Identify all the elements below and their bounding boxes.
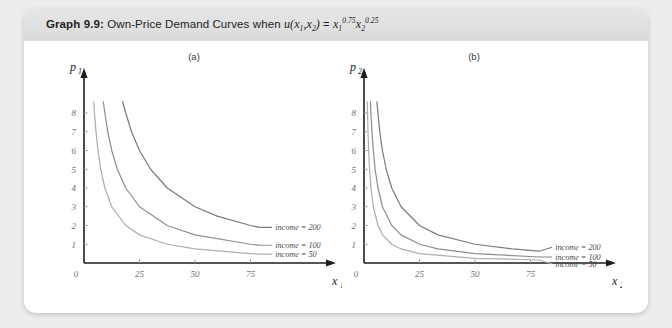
figure-number: Graph 9.9:: [46, 18, 104, 30]
x-tick-label: 50: [191, 269, 201, 279]
y-axis-subscript: 1: [78, 67, 82, 76]
y-tick-label: 6: [72, 146, 77, 156]
utility-open: (x: [290, 17, 300, 31]
y-tick-label: 1: [72, 240, 77, 250]
rhs-x2-sub: 2: [361, 24, 365, 33]
y-tick-label: 7: [352, 127, 357, 137]
y-tick-label: 3: [351, 202, 357, 212]
y-tick-label: 4: [72, 183, 77, 193]
y-tick-label: 3: [71, 202, 77, 212]
figure-caption: Graph 9.9: Own-Price Demand Curves when …: [46, 16, 379, 33]
x-tick-label: 75: [246, 269, 256, 279]
y-tick-label: 6: [352, 146, 357, 156]
figure-page: Graph 9.9: Own-Price Demand Curves when …: [0, 0, 672, 328]
figure-title-text: Own-Price Demand Curves when: [107, 18, 280, 30]
demand-curve: [103, 102, 259, 245]
y-tick-label: 7: [72, 127, 77, 137]
y-tick-label: 2: [72, 221, 77, 231]
y-tick-label: 4: [352, 183, 357, 193]
x-axis-subscript: 2: [620, 281, 622, 290]
y-axis-label: p: [349, 60, 356, 74]
rhs-x1-exponent: 0.75: [342, 16, 356, 25]
legend-label: income = 50: [275, 250, 316, 259]
demand-curve: [377, 102, 539, 251]
utility-comma: ,x: [303, 17, 312, 31]
panel-a: (a) 025507512345678p1x1income = 200incom…: [46, 41, 342, 303]
y-tick-label: 2: [352, 221, 357, 231]
y-axis-subscript: 2: [358, 67, 362, 76]
panel-a-svg: 025507512345678p1x1income = 200income = …: [46, 41, 342, 303]
y-tick-label: 1: [352, 240, 357, 250]
y-tick-label: 5: [352, 165, 357, 175]
demand-curve: [370, 102, 539, 257]
utility-close: ): [316, 17, 320, 31]
legend-label: income = 100: [275, 241, 321, 250]
demand-curve: [367, 102, 539, 260]
rhs-x2-exponent: 0.25: [365, 16, 379, 25]
utility-function-expression: u(x1,x2): [284, 17, 323, 31]
x-tick-label: 25: [415, 269, 425, 279]
panel-b: (b) 025507512345678p2x2income = 200incom…: [326, 41, 622, 303]
origin-label: 0: [354, 269, 359, 279]
x-axis-label: x: [611, 274, 618, 288]
figure-body: (a) 025507512345678p1x1income = 200incom…: [34, 41, 638, 303]
legend-label: income = 200: [555, 243, 601, 252]
y-tick-label: 5: [72, 165, 77, 175]
x-tick-label: 50: [471, 269, 481, 279]
utility-rhs: x10.75x20.25: [333, 17, 379, 31]
y-tick-label: 8: [72, 108, 77, 118]
panel-b-plot: 025507512345678p2x2income = 200income = …: [326, 41, 622, 303]
legend-label: income = 50: [555, 260, 596, 269]
x-tick-label: 75: [526, 269, 536, 279]
legend-leader-line: [539, 247, 552, 251]
panel-b-svg: 025507512345678p2x2income = 200income = …: [326, 41, 622, 303]
x-tick-label: 25: [135, 269, 145, 279]
origin-label: 0: [74, 269, 79, 279]
demand-curve: [94, 102, 259, 254]
figure-card: Graph 9.9: Own-Price Demand Curves when …: [24, 8, 648, 313]
rhs-x1-sub: 1: [338, 24, 342, 33]
equals-sign: =: [323, 18, 330, 30]
panel-a-plot: 025507512345678p1x1income = 200income = …: [46, 41, 342, 303]
y-axis-label: p: [69, 60, 76, 74]
legend-label: income = 200: [275, 223, 321, 232]
y-tick-label: 8: [352, 108, 357, 118]
